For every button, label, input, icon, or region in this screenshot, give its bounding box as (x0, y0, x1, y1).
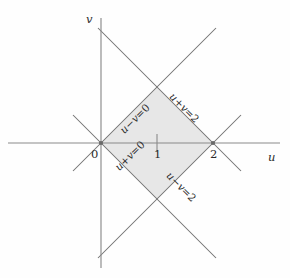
vertex-dot-origin (99, 141, 103, 145)
tick-label-0: 0 (91, 149, 98, 161)
plot-canvas (0, 0, 290, 278)
tick-label-1: 1 (154, 149, 161, 161)
uv-plane-figure: v u 0 1 2 u−v=0 u+v=2 u+v=0 u−v=2 (0, 0, 290, 278)
vertex-dot-two (211, 141, 215, 145)
u-axis-label: u (268, 152, 275, 164)
tick-label-2: 2 (210, 149, 217, 161)
v-axis-label: v (86, 14, 93, 26)
